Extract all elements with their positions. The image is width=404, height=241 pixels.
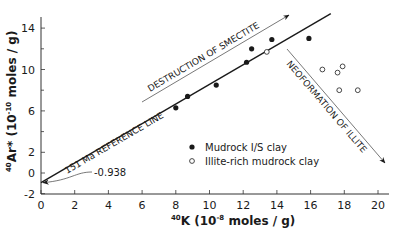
x-tick-label: 8 xyxy=(172,199,179,212)
destruction-arrow xyxy=(142,15,289,102)
data-point-mudrock xyxy=(306,36,311,41)
y-tick-label: 2 xyxy=(28,146,35,159)
x-tick-label: 18 xyxy=(337,199,351,212)
x-ticks: 02468101214161820 xyxy=(38,190,386,212)
legend-filled-marker xyxy=(189,144,194,149)
x-axis-label: 40K (10-8 moles / g) xyxy=(171,214,295,228)
data-points xyxy=(173,36,360,111)
x-tick-label: 2 xyxy=(71,199,78,212)
y-tick-label: 14 xyxy=(21,22,35,35)
legend-open-marker xyxy=(190,159,195,164)
data-point-illite-rich xyxy=(355,88,360,93)
data-point-mudrock xyxy=(173,105,178,110)
x-tick-label: 14 xyxy=(270,199,284,212)
chart: -20261014 02468101214161820 40K (10-8 mo… xyxy=(0,0,404,241)
y-tick-label: 6 xyxy=(28,105,35,118)
x-tick-label: 20 xyxy=(371,199,385,212)
destruction-label: DESTRUCTION OF SMECTITE xyxy=(146,20,261,94)
data-point-illite-rich xyxy=(340,64,345,69)
intercept-label: -0.938 xyxy=(94,167,126,178)
x-tick-label: 16 xyxy=(304,199,318,212)
data-point-illite-rich xyxy=(320,67,325,72)
y-axis-label: 40Ar* (10-10 moles / g) xyxy=(5,31,19,172)
data-point-illite-rich xyxy=(337,88,342,93)
legend-item-illite-rich: Illite-rich mudrock clay xyxy=(205,156,319,167)
neoformation-arrow xyxy=(287,49,385,163)
legend-item-mudrock: Mudrock I/S clay xyxy=(205,142,287,153)
data-point-mudrock xyxy=(249,46,254,51)
data-point-mudrock xyxy=(269,37,274,42)
data-point-mudrock xyxy=(214,82,219,87)
y-tick-label: 0 xyxy=(28,167,35,180)
data-point-illite-rich xyxy=(264,50,269,55)
legend: Mudrock I/S clay Illite-rich mudrock cla… xyxy=(189,142,319,167)
data-point-mudrock xyxy=(185,94,190,99)
x-tick-label: 4 xyxy=(105,199,112,212)
neoformation-label: NEOFORMATION OF ILLITE xyxy=(284,59,369,155)
x-tick-label: 6 xyxy=(139,199,146,212)
data-point-illite-rich xyxy=(335,70,340,75)
y-tick-label: 10 xyxy=(21,64,35,77)
data-point-mudrock xyxy=(244,60,249,65)
x-tick-label: 12 xyxy=(236,199,250,212)
reference-line-label: 151 Ma REFERENCE LINE xyxy=(63,110,166,176)
x-tick-label: 0 xyxy=(38,199,45,212)
x-tick-label: 10 xyxy=(203,199,217,212)
y-tick-label: -2 xyxy=(24,188,35,201)
